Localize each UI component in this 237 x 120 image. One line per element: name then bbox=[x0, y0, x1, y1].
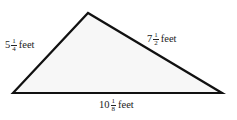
left-side-denominator: 4 bbox=[11, 46, 17, 53]
right-side-whole: 7 bbox=[147, 34, 152, 45]
left-side-whole: 5 bbox=[5, 40, 10, 51]
right-side-label: 7 1 2 feet bbox=[147, 32, 177, 47]
right-side-fraction: 1 2 bbox=[153, 32, 159, 47]
triangle bbox=[13, 13, 222, 93]
base-side-fraction: 1 8 bbox=[111, 98, 117, 113]
right-side-unit: feet bbox=[161, 34, 177, 45]
base-side-whole: 10 bbox=[99, 100, 110, 111]
left-side-label: 5 1 4 feet bbox=[5, 38, 35, 53]
base-side-unit: feet bbox=[118, 100, 134, 111]
base-side-label: 10 1 8 feet bbox=[99, 98, 134, 113]
left-side-unit: feet bbox=[19, 40, 35, 51]
base-side-denominator: 8 bbox=[111, 106, 117, 113]
right-side-denominator: 2 bbox=[153, 40, 159, 47]
left-side-fraction: 1 4 bbox=[11, 38, 17, 53]
